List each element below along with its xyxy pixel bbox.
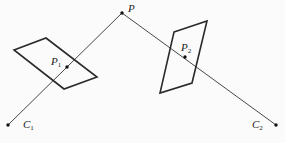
ray-p-c2 — [122, 13, 276, 125]
points — [6, 11, 277, 126]
point-c2 — [274, 123, 277, 126]
point-c1 — [6, 123, 9, 126]
point-p — [120, 11, 123, 14]
point-p2 — [183, 55, 186, 58]
label-p1: P1 — [50, 55, 62, 69]
epipolar-diagram: PC1C2P1P2 — [0, 0, 285, 143]
label-c2: C2 — [252, 118, 263, 132]
label-p2: P2 — [180, 41, 192, 55]
label-c1: C1 — [23, 118, 34, 132]
ray-c1-p — [8, 13, 122, 125]
image-planes — [14, 21, 207, 93]
label-p: P — [127, 2, 135, 14]
point-labels: PC1C2P1P2 — [23, 2, 263, 132]
point-p1 — [65, 65, 68, 68]
projection-rays — [8, 13, 276, 125]
diagram-svg: PC1C2P1P2 — [0, 0, 285, 143]
